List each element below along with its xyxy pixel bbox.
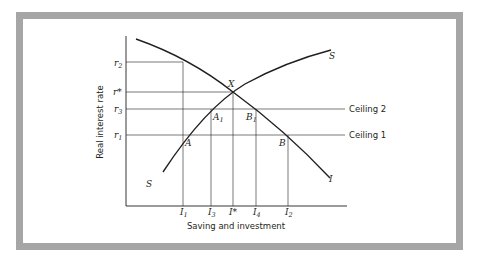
point-a-label: A (184, 138, 192, 148)
x-tick-i1: I1 (179, 207, 188, 219)
point-b-label: B (278, 138, 286, 148)
x-tick-i2: I2 (284, 207, 293, 219)
y-tick-r1: r1 (114, 130, 122, 142)
point-x-label: X (227, 79, 235, 89)
y-axis-title: Real interest rate (95, 85, 105, 159)
investment-curve-label: I (328, 174, 333, 184)
ceiling-2-label: Ceiling 2 (349, 104, 386, 114)
x-axis-title: Saving and investment (187, 221, 286, 231)
y-tick-r3: r3 (114, 104, 122, 116)
y-tick-r2: r2 (114, 58, 122, 70)
x-tick-i4: I4 (252, 207, 261, 219)
x-tick-i3: I3 (207, 207, 216, 219)
y-tick-rstar: r* (113, 87, 122, 97)
ceiling-1-label: Ceiling 1 (349, 130, 386, 140)
point-a1-label: A1 (212, 112, 224, 124)
saving-curve-label-top: S (329, 51, 335, 61)
point-b1-label: B1 (245, 112, 257, 124)
x-tick-istar: I* (228, 207, 238, 217)
saving-curve-label-bottom: S (146, 179, 152, 189)
saving-investment-diagram: S S I X A A1 B1 B Ceiling 2 Ceiling 1 r2… (0, 0, 478, 265)
